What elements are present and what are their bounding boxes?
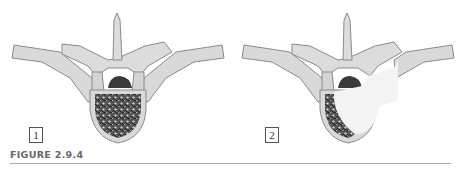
figure-caption: FIGURE 2.9.4 — [10, 149, 83, 160]
panel-label-2: 2 — [265, 127, 279, 143]
vertebra-illustration-1 — [0, 0, 230, 145]
vertebra-illustration-2 — [230, 0, 460, 145]
panel-label-1: 1 — [29, 127, 43, 143]
caption-divider — [10, 163, 451, 164]
figure-panel-2: 2 — [230, 0, 460, 145]
figure-panel-1: 1 — [0, 0, 230, 145]
